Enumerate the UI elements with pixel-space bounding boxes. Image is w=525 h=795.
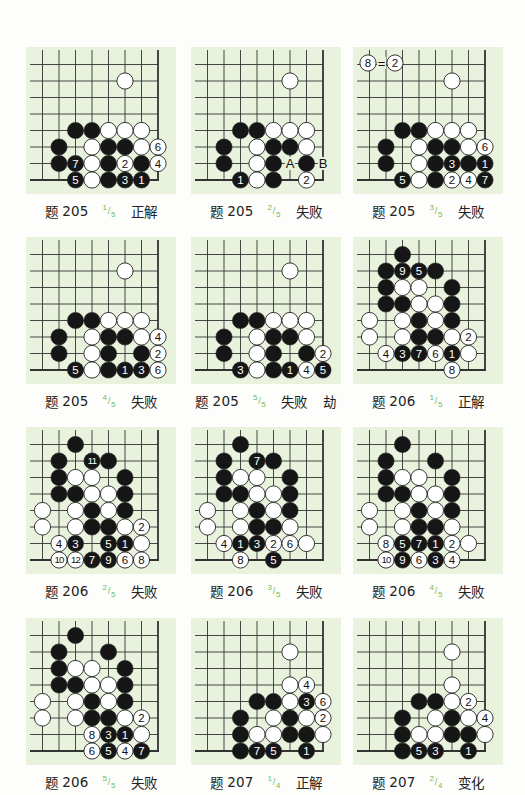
step-fraction: 14 — [268, 778, 281, 787]
black-stone — [216, 139, 232, 155]
black-stone — [51, 644, 67, 660]
white-stone — [67, 469, 83, 485]
diagram-caption: 题 207 24 变化 — [353, 773, 503, 791]
problem-number: 206 — [62, 583, 88, 599]
black-stone — [378, 155, 394, 171]
move-number: 2 — [122, 158, 128, 170]
black-stone — [378, 453, 394, 469]
white-stone — [427, 296, 443, 312]
black-stone — [427, 139, 443, 155]
white-stone: 2 — [315, 710, 331, 726]
white-stone — [34, 710, 50, 726]
move-number: 1 — [303, 745, 309, 757]
black-stone — [298, 345, 314, 361]
move-number: 3 — [72, 538, 78, 550]
move-number: 9 — [399, 265, 405, 277]
problem-number: 205 — [62, 393, 88, 409]
result-label: 失败 — [458, 581, 484, 601]
black-stone: 3 — [117, 172, 133, 188]
white-stone — [84, 469, 100, 485]
move-number: 4 — [155, 158, 162, 170]
black-stone — [265, 362, 281, 378]
black-stone — [84, 502, 100, 518]
move-number: 4 — [303, 679, 310, 691]
black-stone — [249, 502, 265, 518]
move-number: 3 — [105, 729, 111, 741]
black-stone — [444, 312, 460, 328]
white-stone — [298, 139, 314, 155]
move-number: 1 — [122, 364, 128, 376]
white-stone — [199, 519, 215, 535]
fraction-denominator: 5 — [272, 590, 280, 599]
black-stone — [249, 122, 265, 138]
diagram-caption: 题 205 45 失败 — [26, 392, 176, 410]
black-stone — [133, 345, 149, 361]
board-background — [26, 618, 176, 765]
black-stone: 7 — [411, 535, 427, 551]
diagram-caption: 题 205 35 失败 — [353, 202, 503, 220]
white-stone — [249, 726, 265, 742]
white-stone — [265, 710, 281, 726]
white-stone — [84, 362, 100, 378]
white-stone — [361, 519, 377, 535]
white-stone — [411, 726, 427, 742]
white-stone — [394, 502, 410, 518]
problem-label: 题 — [210, 772, 223, 792]
black-stone — [460, 726, 476, 742]
white-stone — [361, 502, 377, 518]
move-number: 9 — [105, 554, 111, 566]
black-stone: 5 — [67, 362, 83, 378]
problem-label: 题 — [195, 391, 208, 411]
black-stone — [249, 312, 265, 328]
black-stone — [378, 296, 394, 312]
black-stone — [117, 486, 133, 502]
black-stone — [51, 660, 67, 676]
black-stone — [100, 519, 116, 535]
move-number: 8 — [89, 729, 95, 741]
board-background — [353, 47, 503, 194]
white-stone — [232, 519, 248, 535]
diagram-205-step-2: 12AB 题 205 25 失败 — [191, 47, 341, 227]
fraction-denominator: 5 — [434, 400, 442, 409]
black-stone: 3 — [232, 362, 248, 378]
move-number: 1 — [237, 174, 243, 186]
black-stone — [411, 693, 427, 709]
go-board: 6724531 — [26, 47, 176, 194]
black-stone — [67, 436, 83, 452]
black-stone — [282, 329, 298, 345]
white-stone — [282, 263, 298, 279]
white-stone — [411, 139, 427, 155]
white-stone — [100, 312, 116, 328]
move-number: 4 — [122, 745, 129, 757]
move-number: 6 — [155, 364, 161, 376]
black-stone — [84, 312, 100, 328]
white-stone — [100, 486, 116, 502]
black-stone: 7 — [84, 552, 100, 568]
move-number: 4 — [482, 712, 489, 724]
black-stone — [216, 486, 232, 502]
white-stone — [133, 535, 149, 551]
move-number: 5 — [270, 554, 276, 566]
black-stone — [427, 155, 443, 171]
move-number: 5 — [399, 174, 405, 186]
move-number: 8 — [383, 538, 389, 550]
board-background — [191, 47, 341, 194]
move-number: 8 — [449, 364, 455, 376]
white-stone — [427, 122, 443, 138]
black-stone — [265, 139, 281, 155]
black-stone — [444, 726, 460, 742]
black-stone: 1 — [232, 535, 248, 551]
white-stone — [394, 469, 410, 485]
white-stone: 8 — [84, 726, 100, 742]
white-stone — [100, 677, 116, 693]
white-stone — [298, 312, 314, 328]
white-stone — [298, 329, 314, 345]
move-number: 3 — [237, 364, 243, 376]
black-stone — [232, 726, 248, 742]
white-stone — [117, 73, 133, 89]
white-stone: 6 — [282, 535, 298, 551]
move-number: 2 — [270, 538, 276, 550]
move-number: 2 — [449, 174, 455, 186]
black-stone — [298, 155, 314, 171]
move-number: 3 — [399, 348, 405, 360]
